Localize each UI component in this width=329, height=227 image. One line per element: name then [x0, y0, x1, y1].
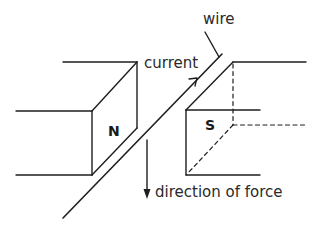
north-magnet-top-slant-edge: [92, 62, 137, 111]
force-arrow-head-icon: [144, 189, 151, 199]
diagram-svg: wire current N S direction of force: [0, 0, 329, 227]
north-pole-label: N: [108, 123, 120, 139]
force-label: direction of force: [155, 183, 283, 201]
south-magnet: [186, 62, 306, 175]
diagram-canvas: wire current N S direction of force: [0, 0, 329, 227]
south-pole-label: S: [205, 117, 215, 133]
wire-label-leader: [205, 32, 219, 57]
force-arrow: [144, 140, 151, 199]
wire-label: wire: [203, 10, 235, 28]
current-label: current: [144, 54, 198, 72]
north-magnet: [16, 62, 137, 175]
